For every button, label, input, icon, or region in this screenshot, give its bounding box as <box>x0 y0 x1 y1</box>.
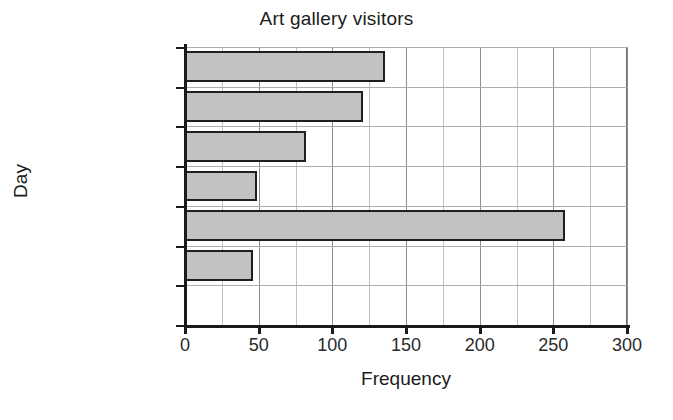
gridline-minor-vertical <box>590 47 591 325</box>
x-axis-tick <box>552 325 555 334</box>
bar-thursday <box>185 171 257 202</box>
x-tick-label-200: 200 <box>450 336 510 354</box>
gridline-minor-vertical <box>517 47 518 325</box>
y-axis-tick <box>176 206 185 208</box>
x-tick-label-100: 100 <box>302 336 362 354</box>
gridline-horizontal <box>185 87 627 88</box>
bar-saturday <box>185 91 363 122</box>
y-axis-tick <box>176 87 185 89</box>
gridline-major-vertical <box>553 47 554 325</box>
gridline-minor-vertical <box>443 47 444 325</box>
gridline-major-vertical <box>259 47 260 325</box>
gridline-major-vertical <box>627 47 628 325</box>
x-axis-tick <box>331 325 334 334</box>
bar-friday <box>185 131 306 162</box>
x-tick-label-150: 150 <box>376 336 436 354</box>
chart-title: Art gallery visitors <box>0 8 673 30</box>
gridline-major-vertical <box>406 47 407 325</box>
x-tick-label-0: 0 <box>155 336 215 354</box>
gridline-horizontal <box>185 166 627 167</box>
bar-wednesday <box>185 210 565 241</box>
gridline-minor-vertical <box>369 47 370 325</box>
bar-chart: Art gallery visitors MondayTuesdayWednes… <box>0 0 673 420</box>
x-tick-label-300: 300 <box>597 336 657 354</box>
gridline-horizontal <box>185 285 627 286</box>
x-axis-tick <box>258 325 261 334</box>
bar-tuesday <box>185 250 253 281</box>
x-tick-label-50: 50 <box>229 336 289 354</box>
gridline-horizontal <box>185 126 627 127</box>
gridline-horizontal <box>185 246 627 247</box>
y-axis-tick <box>176 166 185 168</box>
y-axis-tick <box>176 126 185 128</box>
gridline-major-vertical <box>480 47 481 325</box>
x-axis-title: Frequency <box>185 368 627 390</box>
x-axis-tick <box>184 325 187 334</box>
y-axis-title: Day <box>10 136 32 226</box>
y-axis-tick <box>176 47 185 49</box>
x-axis-tick <box>479 325 482 334</box>
gridline-horizontal <box>185 206 627 207</box>
gridline-minor-vertical <box>296 47 297 325</box>
bar-sunday <box>185 51 385 82</box>
plot-area <box>185 47 627 325</box>
y-axis-tick <box>176 246 185 248</box>
x-tick-label-250: 250 <box>523 336 583 354</box>
x-axis-tick <box>626 325 629 334</box>
y-axis-tick <box>176 285 185 287</box>
x-axis-tick <box>405 325 408 334</box>
gridline-major-vertical <box>332 47 333 325</box>
gridline-horizontal <box>185 47 627 48</box>
